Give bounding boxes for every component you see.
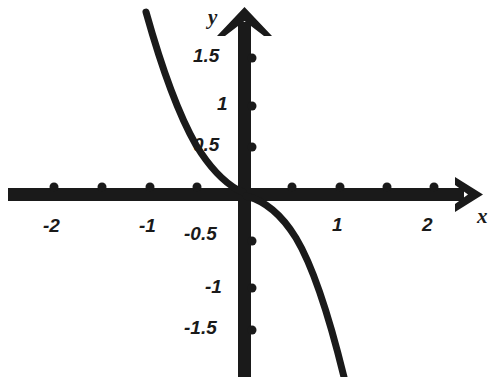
y-axis-label: y <box>205 5 218 29</box>
y-tick-label-1_5: 1.5 <box>193 45 220 66</box>
y-tick-1 <box>248 102 257 111</box>
x-tick--2 <box>50 183 59 192</box>
cartesian-plot: y x 1.5 1 0.5 -0.5 -1 -1.5 -2 -1 1 2 <box>0 0 494 377</box>
y-tick-1_5 <box>248 54 257 63</box>
x-tick-label-2: 2 <box>421 214 433 235</box>
curve-branch-lower-right <box>246 196 344 377</box>
graph-figure: y x 1.5 1 0.5 -0.5 -1 -1.5 -2 -1 1 2 <box>0 0 494 377</box>
x-tick-0_5 <box>288 183 297 192</box>
y-tick-0_5 <box>248 143 257 152</box>
y-tick--1 <box>248 284 257 293</box>
x-tick--1_5 <box>98 183 107 192</box>
x-tick-label--1: -1 <box>139 215 156 236</box>
y-tick-label--1_5: -1.5 <box>184 317 217 338</box>
x-tick-label-1: 1 <box>332 214 343 235</box>
y-tick-label-0_5: 0.5 <box>193 134 220 155</box>
y-tick--0_5 <box>248 237 257 246</box>
curve-branch-upper-left <box>146 12 243 192</box>
x-tick-2 <box>430 183 439 192</box>
y-tick--1_5 <box>248 326 257 335</box>
x-axis-label: x <box>476 204 488 228</box>
x-tick-1_5 <box>383 183 392 192</box>
y-tick-label--0_5: -0.5 <box>184 223 217 244</box>
x-tick-1 <box>336 183 345 192</box>
y-tick-label-1: 1 <box>217 93 228 114</box>
y-tick-label--1: -1 <box>205 276 222 297</box>
x-tick--0_5 <box>193 183 202 192</box>
x-tick-label--2: -2 <box>43 215 60 236</box>
x-tick--1 <box>146 183 155 192</box>
